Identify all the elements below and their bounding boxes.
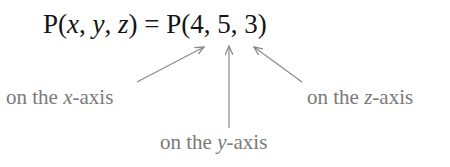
label-prefix: on the: [160, 130, 217, 154]
label-suffix: -axis: [226, 130, 267, 154]
label-prefix: on the: [6, 85, 63, 109]
label-suffix: -axis: [72, 85, 113, 109]
arrow-z-icon: [254, 47, 302, 82]
label-x-axis: on the x-axis: [6, 84, 113, 110]
label-prefix: on the: [307, 85, 364, 109]
arrow-x-icon: [137, 47, 204, 82]
label-suffix: -axis: [372, 85, 413, 109]
label-z-axis: on the z-axis: [307, 84, 413, 110]
label-y-axis: on the y-axis: [160, 129, 267, 155]
